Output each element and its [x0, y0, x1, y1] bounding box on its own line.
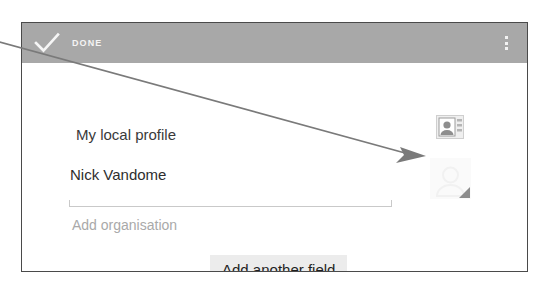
overflow-dot-3 — [505, 47, 508, 50]
overflow-menu-icon[interactable] — [499, 32, 513, 54]
name-field-underline — [69, 200, 392, 207]
overflow-dot-2 — [505, 42, 508, 45]
add-another-field-button[interactable]: Add another field — [210, 255, 347, 272]
organisation-placeholder: Add organisation — [72, 217, 177, 233]
action-bar: DONE — [22, 23, 527, 63]
account-label: My local profile — [76, 126, 176, 143]
contact-editor-card: DONE My local profile Nick Vandome — [21, 22, 528, 272]
overflow-dot-1 — [505, 36, 508, 39]
organisation-row[interactable]: Add organisation — [22, 213, 527, 237]
contact-card-icon[interactable] — [436, 115, 464, 139]
avatar-corner-triangle — [459, 187, 470, 198]
card-body: My local profile Nick Vandome — [22, 63, 527, 271]
done-label[interactable]: DONE — [72, 38, 102, 48]
name-value: Nick Vandome — [70, 166, 166, 183]
check-icon[interactable] — [34, 32, 60, 54]
